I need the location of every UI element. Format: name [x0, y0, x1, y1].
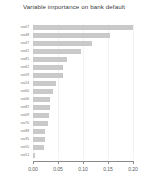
bar [33, 137, 45, 142]
bar-fill [33, 57, 67, 62]
bar [33, 57, 67, 62]
bar [33, 105, 50, 110]
bar-fill [33, 81, 56, 86]
bar-fill [33, 145, 44, 150]
bar [33, 25, 133, 30]
bar [33, 49, 81, 54]
bar [33, 65, 63, 70]
y-axis-tick-label: var51 [21, 153, 29, 158]
y-axis-labels: var07var48var47var41var81var62var59var24… [0, 24, 31, 159]
variable-importance-chart: Variable importance on bank default var0… [0, 0, 148, 189]
x-axis-tick-label: 0.15 [103, 166, 113, 173]
bar-fill [33, 121, 48, 126]
bar-fill [33, 105, 50, 110]
x-axis-tick-label: 0.00 [28, 166, 38, 173]
bar [33, 33, 110, 38]
y-axis-tick-label: var48 [21, 33, 29, 38]
y-axis-tick-label: var47 [21, 41, 29, 46]
x-axis-tick [33, 161, 34, 164]
bar-fill [33, 113, 49, 118]
gridline [108, 24, 109, 159]
x-axis-tick [83, 161, 84, 164]
bar [33, 145, 44, 150]
bar-fill [33, 33, 110, 38]
bar [33, 89, 53, 94]
y-axis-tick-label: var41 [21, 49, 29, 54]
chart-title: Variable importance on bank default [0, 3, 148, 11]
bar [33, 113, 49, 118]
x-axis-tick [108, 161, 109, 164]
bar [33, 81, 56, 86]
x-axis-tick [133, 161, 134, 164]
bar-fill [33, 137, 45, 142]
y-axis-tick-label: var35 [21, 137, 29, 142]
y-axis-tick-label: var62 [21, 65, 29, 70]
bar [33, 129, 45, 134]
x-axis-tick [58, 161, 59, 164]
bar-fill [33, 25, 133, 30]
bar [33, 97, 50, 102]
y-axis-tick-label: var59 [21, 73, 29, 78]
bar [33, 41, 92, 46]
x-axis-tick-label: 0.05 [53, 166, 63, 173]
y-axis-tick-label: var55 [21, 145, 29, 150]
bar-fill [33, 41, 92, 46]
x-axis-tick-label: 0.10 [78, 166, 88, 173]
y-axis-tick-label: var09 [21, 113, 29, 118]
y-axis-tick-label: var06 [21, 97, 29, 102]
bar-fill [33, 49, 81, 54]
bar-fill [33, 89, 53, 94]
y-axis-tick-label: var82 [21, 105, 29, 110]
bar-fill [33, 65, 63, 70]
bar [33, 121, 48, 126]
y-axis-tick-label: var07 [21, 25, 29, 30]
bar [33, 73, 63, 78]
bar-fill [33, 97, 50, 102]
bar-fill [33, 153, 35, 158]
y-axis-tick-label: var81 [21, 57, 29, 62]
y-axis-tick-label: var24 [21, 81, 29, 86]
plot-panel [33, 24, 133, 159]
y-axis-tick-label: var70 [21, 121, 29, 126]
y-axis-tick-label: var88 [21, 129, 29, 134]
gridline [133, 24, 134, 159]
x-axis-tick-label: 0.20 [128, 166, 138, 173]
y-axis-tick-label: var60 [21, 89, 29, 94]
bar-fill [33, 129, 45, 134]
bar [33, 153, 35, 158]
bar-fill [33, 73, 63, 78]
